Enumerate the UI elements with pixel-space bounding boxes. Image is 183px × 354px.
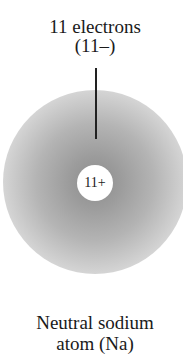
nucleus-charge-label: 11+ [84,175,105,191]
electron-count-label: 11 electrons (11–) [0,17,183,55]
electron-count-text: 11 electrons [0,17,183,36]
nucleus: 11+ [77,165,113,201]
atom-caption-line1: Neutral sodium [0,312,183,333]
label-pointer-line [95,68,97,139]
electron-charge-text: (11–) [0,36,183,55]
atom-caption-line2: atom (Na) [0,333,183,354]
atom-caption: Neutral sodium atom (Na) [0,312,183,354]
